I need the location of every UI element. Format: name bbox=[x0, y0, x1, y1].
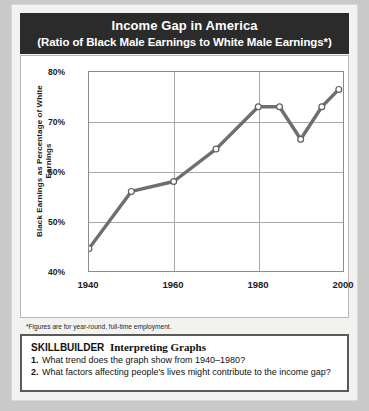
chart-title: Income Gap in America bbox=[20, 17, 349, 34]
x-tick-1980: 1980 bbox=[236, 279, 280, 290]
skillbuilder-heading: SKILLBUILDER Interpreting Graphs bbox=[31, 341, 339, 354]
data-line-series bbox=[89, 72, 343, 271]
data-point-1980 bbox=[255, 104, 261, 110]
data-point-1970 bbox=[213, 146, 219, 152]
data-point-1999 bbox=[336, 87, 342, 93]
skillbuilder-question-1: 1. What trend does the graph show from 1… bbox=[31, 355, 339, 367]
data-point-1985 bbox=[277, 104, 283, 110]
skillbuilder-box: SKILLBUILDER Interpreting Graphs 1. What… bbox=[20, 334, 349, 392]
data-point-1990 bbox=[298, 136, 304, 142]
x-tick-1940: 1940 bbox=[66, 279, 110, 290]
figure-card: Income Gap in America (Ratio of Black Ma… bbox=[12, 5, 357, 400]
chart-title-bar: Income Gap in America (Ratio of Black Ma… bbox=[20, 13, 349, 54]
data-point-1950 bbox=[128, 189, 134, 195]
y-tick-60: 60% bbox=[33, 167, 65, 177]
plot-area bbox=[88, 71, 344, 272]
page-background: Income Gap in America (Ratio of Black Ma… bbox=[0, 0, 369, 411]
data-point-1995 bbox=[319, 104, 325, 110]
question-text: What factors affecting people's lives mi… bbox=[42, 367, 339, 379]
y-tick-40: 40% bbox=[33, 267, 65, 277]
chart-panel: Black Earnings as Percentage of White Ea… bbox=[20, 55, 349, 318]
data-point-1940 bbox=[89, 246, 92, 252]
skillbuilder-topic: Interpreting Graphs bbox=[110, 341, 206, 353]
x-tick-2000: 2000 bbox=[321, 279, 365, 290]
y-tick-70: 70% bbox=[33, 117, 65, 127]
question-number: 1. bbox=[31, 355, 42, 367]
footnote-asterisk: *Figures are for year-round, full-time e… bbox=[26, 323, 171, 330]
question-text: What trend does the graph show from 1940… bbox=[42, 355, 339, 367]
question-number: 2. bbox=[31, 367, 42, 379]
y-tick-80: 80% bbox=[33, 67, 65, 77]
data-point-1960 bbox=[171, 179, 177, 185]
y-tick-50: 50% bbox=[33, 217, 65, 227]
chart-subtitle: (Ratio of Black Male Earnings to White M… bbox=[20, 34, 349, 50]
x-tick-1960: 1960 bbox=[151, 279, 195, 290]
skillbuilder-label: SKILLBUILDER bbox=[31, 342, 104, 353]
skillbuilder-question-2: 2. What factors affecting people's lives… bbox=[31, 367, 339, 379]
